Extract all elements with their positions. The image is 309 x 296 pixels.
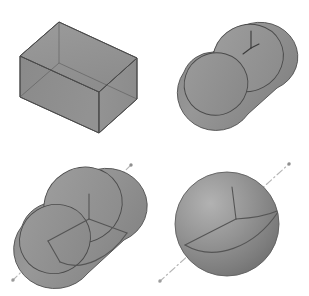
- panel-cylinder-with-axis: [6, 152, 147, 288]
- figure-canvas: [0, 0, 309, 296]
- figure-svg: [0, 0, 309, 296]
- panel-sphere: [158, 162, 290, 282]
- sphere-rotation-axis-end-dot: [287, 162, 290, 165]
- panel-cylinder: [173, 12, 298, 130]
- cylinder-rotation-axis-end-dot: [129, 163, 132, 166]
- panel-box: [20, 22, 137, 133]
- sphere-rotation-axis-start-dot: [158, 279, 161, 282]
- cylinder-rotation-axis-start-dot: [11, 278, 14, 281]
